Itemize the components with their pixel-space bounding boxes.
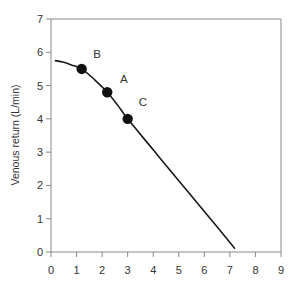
y-tick-label: 3 xyxy=(37,146,43,158)
y-tick-label: 2 xyxy=(37,179,43,191)
chart-canvas: 012345670123456789 BAC Venous return (L/… xyxy=(0,0,297,293)
x-tick-label: 2 xyxy=(99,264,105,276)
y-tick-label: 6 xyxy=(37,46,43,58)
x-tick-label: 5 xyxy=(176,264,182,276)
x-tick-label: 0 xyxy=(48,264,54,276)
point-layer: BAC xyxy=(76,48,147,124)
x-tick-label: 7 xyxy=(227,264,233,276)
x-tick-label: 6 xyxy=(201,264,207,276)
point-a-label: A xyxy=(120,73,128,85)
venous-return-curve xyxy=(55,61,235,249)
venous-return-chart: 012345670123456789 BAC Venous return (L/… xyxy=(0,0,297,293)
point-a-marker xyxy=(102,87,112,97)
y-tick-label: 1 xyxy=(37,213,43,225)
x-tick-label: 3 xyxy=(125,264,131,276)
x-tick-label: 9 xyxy=(278,264,284,276)
point-b-marker xyxy=(76,64,86,74)
x-tick-label: 4 xyxy=(150,264,156,276)
point-c-marker xyxy=(122,114,132,124)
x-tick-label: 1 xyxy=(73,264,79,276)
axis-ticks: 012345670123456789 xyxy=(37,13,284,276)
x-tick-label: 8 xyxy=(252,264,258,276)
y-tick-label: 5 xyxy=(37,80,43,92)
y-axis-title: Venous return (L/min) xyxy=(9,85,21,186)
point-b-label: B xyxy=(93,48,101,60)
y-tick-label: 4 xyxy=(37,113,43,125)
plot-frame xyxy=(51,19,281,252)
series-layer xyxy=(55,61,235,249)
y-tick-label: 0 xyxy=(37,246,43,258)
point-c-label: C xyxy=(139,96,147,108)
y-tick-label: 7 xyxy=(37,13,43,25)
